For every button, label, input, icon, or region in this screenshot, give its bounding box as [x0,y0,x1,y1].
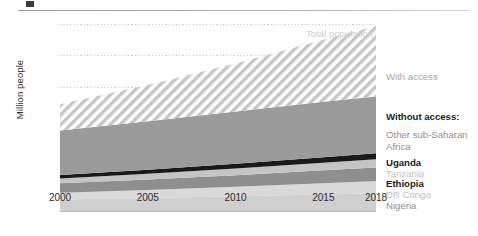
stacked-area-series [60,24,376,212]
x-axis-tick-label: 2000 [49,192,71,203]
plot-area [60,24,376,212]
x-axis-tick-label: 2010 [224,192,246,203]
annotation-without-access: Without access: [386,111,459,123]
figure-root: Million people 2004006008001 0001 200 20… [0,0,478,236]
annotation-dr-congo: DR Congo [386,189,431,201]
x-axis-tick-label: 2018 [365,192,387,203]
annotation-ethiopia: Ethiopia [386,178,424,190]
x-axis-tick-label: 2005 [137,192,159,203]
annotation-africa: Africa [386,141,411,153]
x-axis-tick-label: 2015 [312,192,334,203]
header-divider [18,10,470,11]
annotation-nigeria: Nigeria [386,200,416,212]
x-axis-line [60,211,376,212]
annotation-with-access: With access [386,71,438,83]
figure-bullet-icon [26,1,34,7]
area-svg [60,24,376,212]
annotation-uganda: Uganda [386,157,421,169]
annotation-total-population: Total population [306,28,373,40]
annotation-other-sub-saharan: Other sub-Saharan [386,129,468,141]
y-axis-title: Million people [14,45,25,135]
